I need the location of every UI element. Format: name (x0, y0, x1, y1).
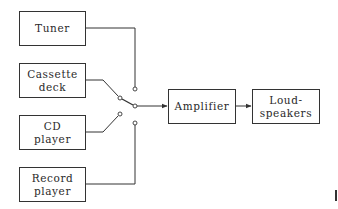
cd-label-line1: CD (44, 120, 62, 133)
switch-arm (122, 99, 133, 105)
edge-mark (335, 190, 337, 201)
record-label-line1: Record (32, 172, 74, 185)
cassette-label-line2: deck (39, 81, 67, 94)
loudspeakers-block: Loud- speakers (252, 89, 320, 124)
record-player-block: Record player (19, 167, 86, 202)
cd-label-line2: player (34, 133, 71, 146)
record-wire (85, 125, 135, 184)
tuner-label: Tuner (35, 22, 70, 35)
cassette-contact (118, 96, 122, 100)
record-label-line2: player (34, 185, 71, 198)
tuner-contact (133, 87, 137, 91)
amplifier-label: Amplifier (175, 100, 230, 113)
cd-contact (118, 112, 122, 116)
cd-wire (85, 116, 118, 132)
speakers-label-line2: speakers (260, 107, 312, 120)
cassette-deck-block: Cassette deck (19, 63, 86, 98)
switch-pivot (133, 104, 137, 108)
record-contact (133, 121, 137, 125)
tuner-block: Tuner (19, 11, 86, 46)
cassette-wire (85, 80, 118, 96)
cassette-label-line1: Cassette (27, 68, 78, 81)
cd-player-block: CD player (19, 115, 86, 150)
amplifier-block: Amplifier (168, 89, 236, 124)
tuner-wire (85, 28, 135, 87)
speakers-label-line1: Loud- (269, 94, 302, 107)
